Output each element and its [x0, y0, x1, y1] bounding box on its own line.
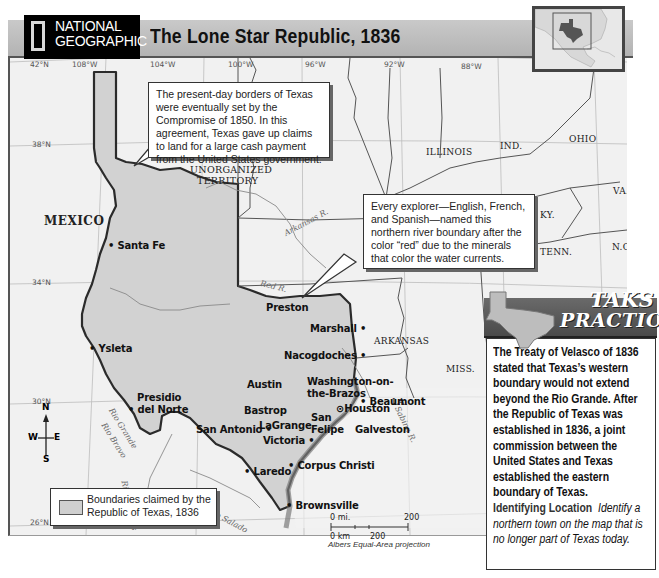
city-ysleta: • Ysleta: [89, 343, 132, 354]
claimed-boundary-swatch: [59, 500, 83, 515]
locator-map: [532, 6, 625, 72]
unorganized-territory-label: UNORGANIZED TERRITORY: [190, 164, 272, 186]
lon-100: 100°W: [228, 60, 253, 69]
state-north-carolina: N.C.: [612, 242, 627, 252]
city-nacogdoches: Nacogdoches •: [284, 350, 366, 361]
taks-practice-title: TAKS PRACTICE: [560, 290, 654, 330]
map-title: The Lone Star Republic, 1836: [150, 25, 400, 48]
lat-26: 26°N: [30, 518, 49, 527]
brand-line-2: GEOGRAPHIC: [55, 34, 147, 49]
city-washington-line2: the-Brazos: [307, 388, 366, 399]
scale-mi-label: 0 mi.: [330, 513, 350, 522]
lon-96: 96°W: [305, 60, 326, 69]
city-lagrange: LaGrange: [259, 420, 311, 431]
lon-88: 88°W: [461, 62, 482, 71]
city-washington-line1: Washington-on-: [307, 376, 393, 387]
compass-s: S: [43, 454, 49, 464]
lon-104: 104°W: [150, 60, 175, 69]
lat-38: 38°N: [32, 140, 51, 149]
city-presidio: Presidio: [137, 392, 181, 403]
state-mississippi: MISS.: [446, 364, 475, 374]
projection-label: Albers Equal-Area projection: [328, 540, 430, 549]
city-san-felipe-line1: San: [311, 412, 331, 423]
city-victoria: Victoria •: [263, 435, 315, 446]
lon-108: 108°W: [72, 60, 97, 69]
national-geographic-logo: NATIONAL GEOGRAPHIC: [24, 15, 140, 59]
city-corpus-christi: • Corpus Christi: [288, 460, 375, 471]
texas-locator-map-icon: [535, 9, 622, 69]
yellow-border-icon: [31, 21, 45, 51]
texas-shape-icon: [484, 290, 558, 350]
city-san-felipe-line2: Felipe: [311, 424, 344, 435]
scale-bar-line: [330, 523, 410, 531]
lat-42: 42°N: [30, 60, 49, 69]
state-tennessee: TENN.: [540, 247, 572, 257]
city-laredo: • Laredo: [244, 466, 291, 477]
legend-line-1: Boundaries claimed by the: [87, 493, 211, 506]
city-brownsville: • Brownsville: [286, 500, 359, 511]
brand-line-1: NATIONAL: [55, 19, 147, 34]
state-indiana: IND.: [500, 141, 522, 151]
compass-n: N: [42, 402, 50, 412]
state-illinois: ILLINOIS: [426, 147, 472, 157]
city-marshall: Marshall •: [310, 323, 366, 334]
city-beaumont: • Beaumont: [360, 396, 425, 407]
city-galveston: Galveston: [355, 424, 410, 435]
state-virginia: VA.: [613, 186, 627, 196]
taks-practice-box: The Treaty of Velasco of 1836 stated tha…: [486, 338, 656, 570]
lat-34: 34°N: [32, 278, 51, 287]
state-kentucky: KY.: [540, 210, 555, 220]
compass-rose: N W E S: [28, 408, 68, 464]
legend-line-2: Republic of Texas, 1836: [87, 506, 211, 519]
state-ohio: OHIO: [569, 134, 596, 144]
city-austin: Austin: [247, 379, 282, 390]
city-del-norte: • del Norte: [128, 404, 188, 415]
compromise-callout: The present-day borders of Texas were ev…: [148, 82, 330, 158]
map-legend: Boundaries claimed by the Republic of Te…: [50, 488, 217, 526]
red-river-callout: Every explorer—English, French, and Span…: [363, 194, 535, 269]
compass-e: E: [54, 432, 60, 442]
taks-body-text: The Treaty of Velasco of 1836 stated tha…: [493, 345, 639, 499]
compass-w: W: [28, 432, 38, 442]
city-bastrop: Bastrop: [244, 405, 287, 416]
taks-question-label: Identifying Location: [493, 501, 592, 515]
mexico-label: MEXICO: [44, 214, 104, 228]
city-preston: Preston: [266, 302, 308, 313]
lon-92: 92°W: [384, 60, 405, 69]
state-arkansas: ARKANSAS: [374, 336, 429, 346]
city-santa-fe: • Santa Fe: [108, 240, 165, 251]
scale-mi-max: 200: [404, 513, 419, 522]
